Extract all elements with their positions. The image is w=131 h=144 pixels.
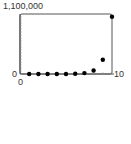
data-point (82, 71, 86, 75)
data-point (64, 72, 68, 76)
y-axis-max-label: 1,100,000 (3, 2, 43, 11)
data-point (110, 15, 114, 19)
data-point (91, 68, 95, 72)
data-point (101, 58, 105, 62)
data-point (55, 72, 59, 76)
x-axis-min-label: 0 (18, 78, 23, 87)
data-point (36, 72, 40, 76)
data-point (73, 72, 77, 76)
plot-frame (20, 14, 114, 74)
data-points (27, 15, 114, 77)
y-axis-ticks (20, 17, 112, 74)
data-point (45, 72, 49, 76)
data-point (27, 72, 31, 76)
y-axis-min-label: 0 (12, 70, 17, 79)
x-axis-max-label: 10 (114, 70, 124, 79)
scatter-plot (0, 0, 131, 144)
